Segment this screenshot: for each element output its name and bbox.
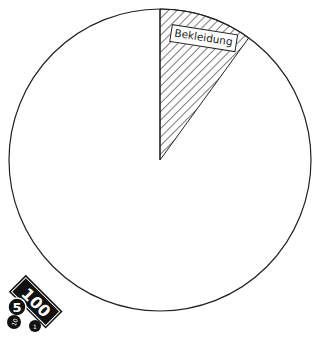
- money-icon: 100 5 10 1: [4, 270, 66, 332]
- svg-text:1: 1: [33, 323, 37, 330]
- svg-text:5: 5: [12, 300, 21, 315]
